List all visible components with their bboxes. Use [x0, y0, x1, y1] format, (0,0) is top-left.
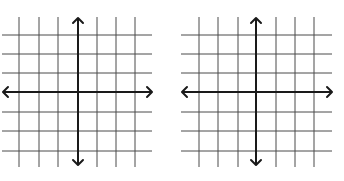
coordinate-planes-canvas	[0, 0, 344, 181]
worksheet	[0, 0, 344, 181]
coordinate-plane-left	[2, 17, 152, 167]
coordinate-plane-right	[181, 17, 332, 167]
